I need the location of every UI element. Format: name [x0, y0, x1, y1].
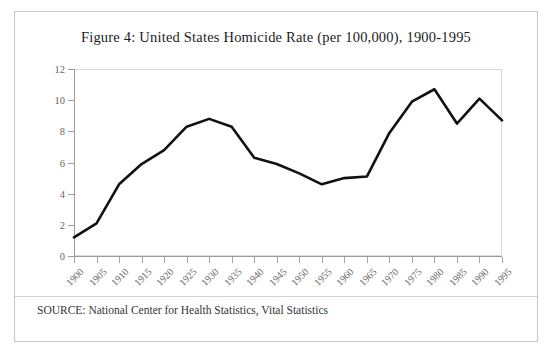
chart-plot: 024681012 190019051910191519201925193019… — [46, 65, 508, 270]
source-divider — [15, 296, 537, 297]
source-note: SOURCE: National Center for Health Stati… — [37, 304, 328, 316]
homicide-rate-line — [46, 65, 508, 270]
figure-frame: Figure 4: United States Homicide Rate (p… — [14, 11, 538, 342]
figure-title: Figure 4: United States Homicide Rate (p… — [15, 29, 537, 46]
